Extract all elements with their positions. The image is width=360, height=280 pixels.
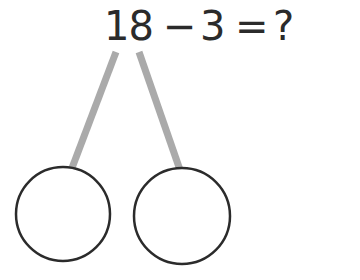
right-connector-line	[139, 52, 180, 170]
right-part-circle[interactable]	[134, 168, 230, 264]
left-part-circle[interactable]	[16, 167, 110, 261]
number-bond-diagram	[0, 0, 360, 280]
left-connector-line	[72, 52, 116, 168]
